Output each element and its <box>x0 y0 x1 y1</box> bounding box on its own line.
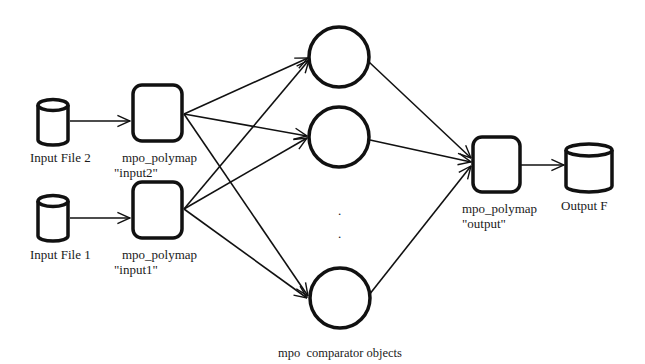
input-file-2-label: Input File 2 <box>30 150 91 165</box>
cylinder-top <box>38 100 68 111</box>
comparator-1-node[interactable] <box>309 27 369 87</box>
edge-comparatorN-to-output <box>369 166 471 295</box>
input-file-1-label: Input File 1 <box>30 247 91 262</box>
polymap-input2-node[interactable]: mpo_polymap "input2" <box>114 85 197 180</box>
edge-polymap2-to-comparator1 <box>184 58 308 114</box>
comparator-2-node[interactable] <box>309 107 369 167</box>
output-file-label: Output F <box>561 198 608 213</box>
process-box <box>133 85 182 141</box>
polymap-output-sublabel: "output" <box>462 216 506 231</box>
process-box <box>473 137 520 192</box>
edge-polymap1-to-comparator1 <box>184 60 309 209</box>
cylinder-top <box>566 144 612 156</box>
polymap-input1-node[interactable]: mpo_polymap "input1" <box>114 182 197 277</box>
polymap-output-label: mpo_polymap <box>462 201 537 216</box>
edge-polymap1-to-comparatorN <box>184 209 307 298</box>
comparator-n-node[interactable] <box>310 268 370 328</box>
edge-polymap2-to-comparatorN <box>184 114 308 296</box>
edge-polymap2-to-comparator2 <box>184 114 307 136</box>
polymap-output-node[interactable]: mpo_polymap "output" <box>462 137 537 231</box>
output-file-node[interactable]: Output F <box>561 144 612 213</box>
polymap-input2-label: mpo_polymap <box>122 150 197 165</box>
polymap-input2-sublabel: "input2" <box>114 165 158 180</box>
ellipsis-dot-2: . <box>338 226 341 241</box>
edge-polymap1-to-comparator2 <box>184 138 307 209</box>
process-box <box>133 182 182 238</box>
ellipsis-dot-1: . <box>338 203 341 218</box>
comparator-circle <box>309 27 369 87</box>
comparators-group-label: mpo comparator objects <box>278 346 402 360</box>
comparator-circle <box>309 107 369 167</box>
input-file-2-node[interactable]: Input File 2 <box>30 100 91 166</box>
polymap-input1-label: mpo_polymap <box>122 247 197 262</box>
polymap-input1-sublabel: "input1" <box>114 262 158 277</box>
ellipsis-dots: . . <box>338 203 341 241</box>
comparator-circle <box>310 268 370 328</box>
cylinder-top <box>38 196 68 207</box>
input-file-1-node[interactable]: Input File 1 <box>30 196 91 263</box>
data-flow-diagram: Input File 2 Input File 1 mpo_polymap "i… <box>0 0 645 364</box>
